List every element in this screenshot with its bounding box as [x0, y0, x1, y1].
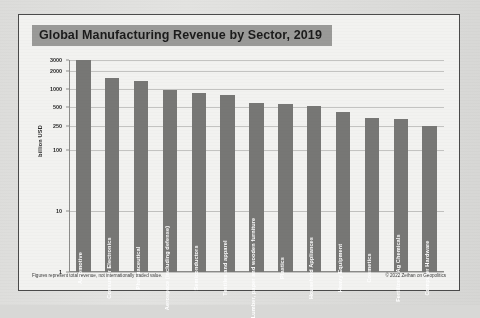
bar-category-label: Heavy Equipment [337, 244, 343, 292]
bar-group[interactable]: Fertilizers/Ag Chemicals [394, 60, 408, 272]
bar-group[interactable]: Automotive [76, 60, 90, 272]
bar-category-label: Cosmetics [366, 253, 372, 282]
bar-group[interactable]: Pharmaceutical [134, 60, 148, 272]
bar-category-label: Pharmaceutical [135, 247, 141, 290]
bars-layer: AutomotiveConsumer ElectronicsPharmaceut… [69, 60, 444, 272]
bar-group[interactable]: Computer Hardware [422, 60, 436, 272]
y-axis-title: billion USD [37, 125, 43, 157]
bar-category-label: Household Appliances [308, 237, 314, 299]
copyright-credit: © 2022 Zeihan on Geopolitics [385, 273, 446, 278]
y-tick-label: 2000 [22, 68, 62, 74]
y-tick-label: 3000 [22, 57, 62, 63]
bar-group[interactable]: Semiconductors [192, 60, 206, 272]
bar-category-label: Fertilizers/Ag Chemicals [395, 234, 401, 301]
bar-category-label: Aerospace (including defense) [164, 226, 170, 310]
footnote-note: Figures represent total revenue, not int… [32, 273, 162, 278]
y-tick-label: 1000 [22, 86, 62, 92]
bar-category-label: Plastics [279, 257, 285, 279]
bar-category-label: Textiles and apparel [222, 240, 228, 295]
bar-category-label: Computer Hardware [424, 240, 430, 295]
y-tick-label: 500 [22, 104, 62, 110]
bar-group[interactable]: Consumer Electronics [105, 60, 119, 272]
bar-group[interactable]: Household Appliances [307, 60, 321, 272]
plot-area: 300020001000500250100101 AutomotiveConsu… [69, 60, 444, 272]
bar-group[interactable]: Aerospace (including defense) [163, 60, 177, 272]
bar-group[interactable]: Cosmetics [365, 60, 379, 272]
bar-group[interactable]: Textiles and apparel [220, 60, 234, 272]
y-tick-label: 10 [22, 208, 62, 214]
page-title: Global Manufacturing Revenue by Sector, … [32, 25, 332, 46]
bar[interactable] [278, 104, 292, 272]
bar-group[interactable]: Plastics [278, 60, 292, 272]
bar[interactable] [365, 118, 379, 272]
figure-frame: Global Manufacturing Revenue by Sector, … [18, 14, 460, 291]
bar-group[interactable]: Heavy Equipment [336, 60, 350, 272]
bar[interactable] [134, 81, 148, 272]
bar-group[interactable]: Lumber, paper and wooden furniture [249, 60, 263, 272]
bar-category-label: Automotive [77, 252, 83, 284]
bar-category-label: Consumer Electronics [106, 237, 112, 298]
bar-category-label: Lumber, paper and wooden furniture [250, 218, 256, 318]
bar-category-label: Semiconductors [193, 245, 199, 290]
bar[interactable] [76, 60, 90, 272]
